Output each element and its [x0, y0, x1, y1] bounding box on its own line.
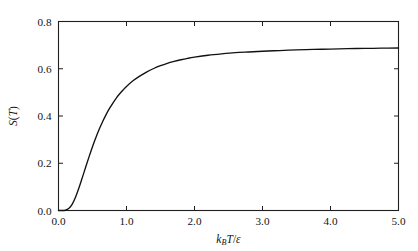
x-tick-label: 3.0	[256, 215, 270, 227]
y-tick-label: 0.0	[38, 205, 52, 217]
x-tick-label: 0.0	[52, 215, 66, 227]
chart-svg: 0.01.02.03.04.05.0 0.00.20.40.60.8 kBT/ε…	[0, 0, 418, 251]
y-tick-label: 0.2	[38, 157, 52, 169]
figure-container: 0.01.02.03.04.05.0 0.00.20.40.60.8 kBT/ε…	[0, 0, 418, 251]
y-tick-label: 0.6	[38, 63, 52, 75]
x-tick-label: 4.0	[324, 215, 338, 227]
x-tick-label: 1.0	[120, 215, 134, 227]
ylabel-paren-close: )	[7, 106, 20, 110]
y-tick-label: 0.8	[38, 16, 52, 28]
xlabel-epsilon: ε	[236, 233, 241, 245]
x-tick-label: 5.0	[392, 215, 406, 227]
y-tick-label: 0.4	[38, 110, 52, 122]
figure-background	[0, 0, 418, 251]
x-tick-label: 2.0	[188, 215, 202, 227]
y-axis-label: S(T)	[7, 106, 20, 126]
